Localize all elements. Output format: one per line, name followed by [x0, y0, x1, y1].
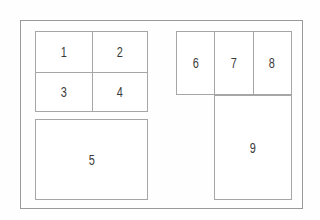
region-cell-2-label: 2 — [116, 45, 122, 59]
region-cell-2[interactable]: 2 — [92, 32, 147, 72]
region-cell-6-label: 6 — [192, 56, 198, 70]
region-cell-8[interactable]: 8 — [253, 32, 291, 94]
region-cell-3-label: 3 — [61, 85, 67, 99]
region-cell-6[interactable]: 6 — [177, 32, 214, 94]
wireframe-canvas: 1 2 3 4 5 6 7 8 9 — [0, 0, 320, 220]
region-cell-9[interactable]: 9 — [214, 95, 292, 200]
region-cell-1[interactable]: 1 — [36, 32, 92, 72]
region-cell-7[interactable]: 7 — [214, 32, 253, 94]
region-cell-9-label: 9 — [250, 141, 256, 155]
region-cell-8-label: 8 — [269, 56, 275, 70]
region-cell-4-label: 4 — [116, 85, 122, 99]
region-cell-7-label: 7 — [230, 56, 236, 70]
triple-row-group: 6 7 8 — [176, 31, 292, 95]
region-cell-1-label: 1 — [61, 45, 67, 59]
quadrant-grid-group: 1 2 3 4 — [35, 31, 148, 112]
region-cell-3[interactable]: 3 — [36, 72, 92, 111]
region-cell-5-label: 5 — [88, 153, 94, 167]
region-cell-5[interactable]: 5 — [35, 119, 148, 200]
region-cell-4[interactable]: 4 — [92, 72, 147, 111]
